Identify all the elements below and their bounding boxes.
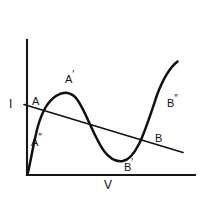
double-prime-mark: ″	[174, 93, 177, 104]
y-axis-label: I	[9, 99, 12, 110]
characteristic-curve	[28, 62, 178, 175]
x-axis-label: V	[104, 180, 112, 191]
point-label-b: B	[155, 133, 162, 144]
load-line	[24, 105, 183, 153]
point-label-a-double-prime: A″	[31, 137, 41, 148]
figure-canvas: I V A A′ A″ B B′ B″	[0, 0, 205, 197]
point-label-a-prime: A′	[65, 74, 74, 85]
prime-mark: ′	[131, 157, 132, 168]
double-prime-mark: ″	[38, 132, 41, 143]
point-label-b-prime: B′	[124, 162, 133, 173]
point-label-a: A	[32, 96, 39, 107]
prime-mark: ′	[72, 69, 73, 80]
point-label-b-double-prime: B″	[167, 98, 177, 109]
